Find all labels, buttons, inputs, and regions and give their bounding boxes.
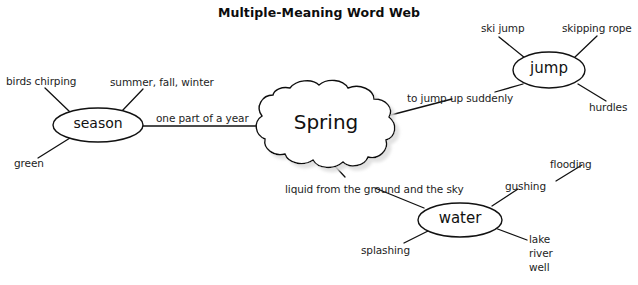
line-water-lake-river-well [495, 228, 527, 240]
label-ski-jump: ski jump [481, 22, 524, 35]
label-skipping-rope: skipping rope [562, 22, 632, 35]
label-lake-river-well: lake river well [529, 232, 553, 274]
node-label-jump: jump [513, 59, 585, 77]
line-jump-hurdles [578, 84, 606, 101]
word-web-diagram: Multiple-Meaning Word Web [0, 0, 638, 285]
line-jump-ski-jump [499, 37, 525, 58]
label-splashing: splashing [361, 244, 410, 257]
node-label-season: season [53, 115, 143, 131]
label-gushing: gushing [505, 180, 546, 193]
label-flooding: flooding [550, 158, 592, 171]
label-hurdles: hurdles [589, 101, 627, 114]
line-jump-skipping-rope [575, 36, 597, 57]
label-one-part-of-a-year: one part of a year [156, 112, 249, 125]
node-label-spring: Spring [262, 110, 390, 134]
label-summer-fall-winter: summer, fall, winter [110, 76, 214, 89]
line-season-summer-fall-winter [122, 89, 143, 111]
label-liquid-from-the-ground-and-the-sky: liquid from the ground and the sky [285, 183, 464, 196]
line-water-splashing [404, 231, 428, 243]
label-green: green [14, 157, 44, 170]
label-birds-chirping: birds chirping [6, 75, 76, 88]
label-to-jump-up-suddenly: to jump up suddenly [407, 92, 513, 105]
node-label-water: water [418, 209, 502, 227]
line-season-birds-chirping [45, 88, 70, 112]
line-season-green [38, 138, 70, 158]
line-spring-to-jump-b [495, 84, 523, 92]
